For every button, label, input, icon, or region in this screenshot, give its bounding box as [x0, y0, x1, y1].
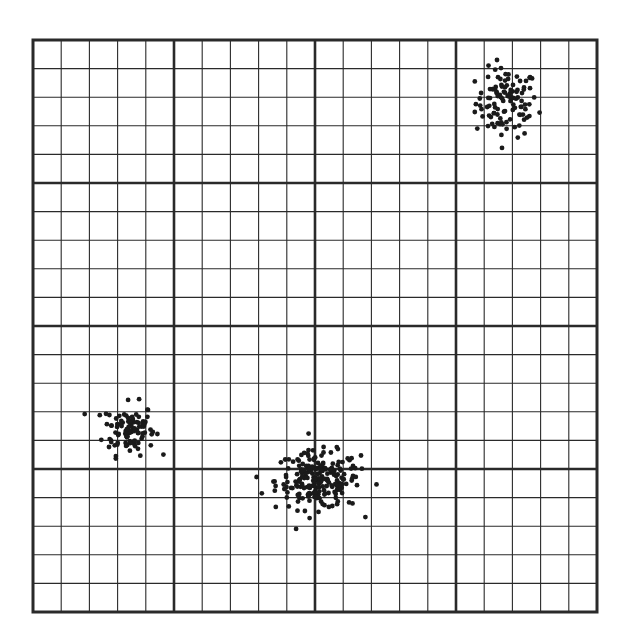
data-point [374, 482, 379, 487]
data-point [273, 505, 278, 510]
data-point [495, 94, 500, 99]
data-point [503, 90, 508, 95]
data-point [135, 420, 140, 425]
data-point [499, 66, 504, 71]
data-point [342, 472, 347, 477]
data-point [527, 102, 532, 107]
data-point [297, 478, 302, 483]
data-point [486, 75, 491, 80]
data-point [495, 107, 500, 112]
data-point [127, 448, 132, 453]
data-point [107, 445, 112, 450]
data-point [125, 434, 130, 439]
data-point [500, 146, 505, 151]
data-point [329, 450, 334, 455]
data-point [522, 131, 527, 136]
data-point [477, 96, 482, 101]
data-point [490, 121, 495, 126]
data-point [272, 488, 277, 493]
data-point [296, 499, 301, 504]
data-point [503, 85, 508, 90]
data-point [486, 124, 491, 129]
data-point [295, 457, 300, 462]
data-point [340, 482, 345, 487]
data-point [474, 102, 479, 107]
data-point [512, 125, 517, 130]
data-point [325, 471, 330, 476]
data-point [137, 397, 142, 402]
data-point [124, 444, 129, 449]
data-point [347, 500, 352, 505]
data-point [259, 491, 264, 496]
data-point [334, 474, 339, 479]
data-point [161, 452, 166, 457]
data-point [290, 486, 295, 491]
data-point [334, 483, 339, 488]
data-point [363, 515, 368, 520]
data-point [297, 463, 302, 468]
data-point [518, 79, 523, 84]
data-point [532, 95, 537, 100]
data-point [112, 443, 117, 448]
data-point [124, 427, 129, 432]
data-point [321, 445, 326, 450]
data-point [279, 460, 284, 465]
data-point [313, 476, 318, 481]
data-point [503, 72, 508, 77]
data-point [353, 466, 358, 471]
data-point [478, 103, 483, 108]
data-point [284, 495, 289, 500]
data-point [137, 424, 142, 429]
data-point [295, 493, 300, 498]
data-point [506, 77, 511, 82]
data-point [127, 439, 132, 444]
data-point [300, 483, 305, 488]
data-point [116, 433, 121, 438]
data-point [335, 502, 340, 507]
data-point [316, 485, 321, 490]
data-point [145, 414, 150, 419]
data-point [338, 466, 343, 471]
data-point [486, 63, 491, 68]
data-point [113, 456, 118, 461]
data-point [515, 135, 520, 140]
chart-canvas [0, 0, 629, 642]
data-point [523, 102, 528, 107]
data-point [347, 458, 352, 463]
data-point [492, 102, 497, 107]
data-point [271, 479, 276, 484]
data-point [333, 492, 338, 497]
data-point [286, 504, 291, 509]
data-point [515, 88, 520, 93]
scatter-chart [0, 0, 629, 642]
data-point [295, 472, 300, 477]
data-point [307, 498, 312, 503]
data-point [306, 431, 311, 436]
data-point [142, 422, 147, 427]
data-point [299, 453, 304, 458]
data-point [119, 419, 124, 424]
data-point [500, 122, 505, 127]
data-point [316, 510, 321, 515]
data-point [99, 437, 104, 442]
data-point [315, 472, 320, 477]
data-point [515, 74, 520, 79]
data-point [286, 457, 291, 462]
data-point [306, 494, 311, 499]
data-point [479, 91, 484, 96]
data-point [281, 482, 286, 487]
cluster-bottom-left [82, 397, 166, 461]
data-point [295, 508, 300, 513]
data-point [475, 126, 480, 131]
data-point [322, 492, 327, 497]
data-point [486, 96, 491, 101]
data-point [528, 86, 533, 91]
data-point [519, 99, 524, 104]
data-point [517, 123, 522, 128]
data-point [132, 438, 137, 443]
data-point [311, 448, 316, 453]
data-point [508, 88, 513, 93]
data-point [307, 457, 312, 462]
data-point [313, 455, 318, 460]
data-point [349, 466, 354, 471]
